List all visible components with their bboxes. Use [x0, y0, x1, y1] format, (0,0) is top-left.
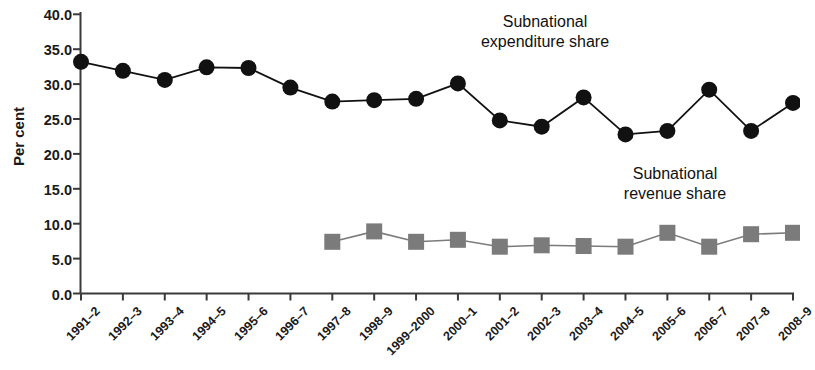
data-point-marker	[576, 238, 592, 254]
data-point-marker	[450, 75, 466, 91]
data-point-marker	[659, 123, 675, 139]
annotation-expenditure: Subnational expenditure share	[432, 12, 658, 52]
series-expenditure	[73, 54, 800, 143]
x-axis-ticks	[81, 294, 793, 301]
series-line	[81, 62, 793, 135]
data-point-marker	[534, 237, 550, 253]
data-point-marker	[366, 92, 382, 108]
data-point-marker	[701, 239, 717, 255]
series-line	[332, 231, 793, 246]
data-point-marker	[241, 60, 257, 76]
data-point-marker	[199, 59, 215, 75]
data-point-marker	[659, 225, 675, 241]
data-point-marker	[785, 225, 800, 241]
data-point-marker	[157, 72, 173, 88]
data-point-marker	[701, 82, 717, 98]
data-point-marker	[115, 63, 131, 79]
data-point-marker	[408, 91, 424, 107]
data-point-marker	[366, 223, 382, 239]
data-point-marker	[492, 239, 508, 255]
data-point-marker	[785, 95, 800, 111]
data-point-marker	[324, 234, 340, 250]
data-point-marker	[534, 119, 550, 135]
data-point-marker	[743, 123, 759, 139]
axes	[73, 12, 794, 301]
data-point-marker	[618, 239, 634, 255]
data-series-layer	[73, 54, 800, 255]
data-point-marker	[576, 89, 592, 105]
data-point-marker	[408, 234, 424, 250]
data-point-marker	[492, 112, 508, 128]
data-point-marker	[743, 226, 759, 242]
data-point-marker	[73, 54, 89, 70]
data-point-marker	[618, 126, 634, 142]
series-revenue	[324, 223, 800, 254]
data-point-marker	[282, 80, 298, 96]
data-point-marker	[324, 94, 340, 110]
annotation-revenue: Subnational revenue share	[562, 164, 788, 204]
data-point-marker	[450, 232, 466, 248]
